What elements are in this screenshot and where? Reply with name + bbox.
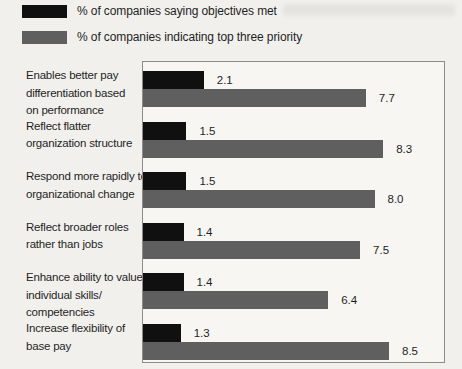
category-label-line: base pay xyxy=(26,338,125,356)
category-label: Respond more rapidly toorganizational ch… xyxy=(26,168,147,203)
category-label-line: Reflect broader roles xyxy=(26,219,129,237)
bar-top-priority: 8.0 xyxy=(143,190,375,208)
bar-value-label: 1.3 xyxy=(194,324,210,342)
bar-chart-figure: % of companies saying objectives met % o… xyxy=(0,0,462,369)
category-label-line: organizational change xyxy=(26,186,147,204)
bar-objectives-met: 1.5 xyxy=(143,122,186,140)
bar-value-label: 6.4 xyxy=(341,291,357,309)
category-label-line: organization structure xyxy=(26,135,132,153)
bar-top-priority: 7.5 xyxy=(143,241,360,259)
category-label-line: differentiation based xyxy=(26,85,125,103)
bar-objectives-met: 1.3 xyxy=(143,324,181,342)
category-label-line: individual skills/ xyxy=(26,287,143,305)
bar-value-label: 1.4 xyxy=(197,223,213,241)
category-label-line: Reflect flatter xyxy=(26,118,132,136)
category-label-line: Enhance ability to value xyxy=(26,269,143,287)
category-label: Enables better paydifferentiation basedo… xyxy=(26,67,125,120)
bar-top-priority: 6.4 xyxy=(143,291,328,309)
bar-top-priority: 8.3 xyxy=(143,140,383,158)
category-label: Reflect flatterorganization structure xyxy=(26,118,132,153)
bar-top-priority: 7.7 xyxy=(143,89,366,107)
category-label-line: rather than jobs xyxy=(26,236,129,254)
category-labels-column: Enables better paydifferentiation basedo… xyxy=(0,0,142,369)
bar-value-label: 8.3 xyxy=(396,140,412,158)
bar-value-label: 7.7 xyxy=(379,89,395,107)
category-label: Reflect broader rolesrather than jobs xyxy=(26,219,129,254)
category-label-line: Increase flexibility of xyxy=(26,320,125,338)
category-label-line: Enables better pay xyxy=(26,67,125,85)
bar-value-label: 2.1 xyxy=(217,71,233,89)
bar-objectives-met: 1.4 xyxy=(143,273,184,291)
category-label-line: Respond more rapidly to xyxy=(26,168,147,186)
bar-value-label: 7.5 xyxy=(373,241,389,259)
bar-value-label: 1.4 xyxy=(197,273,213,291)
bar-value-label: 1.5 xyxy=(199,172,215,190)
bar-value-label: 1.5 xyxy=(199,122,215,140)
category-label: Enhance ability to valueindividual skill… xyxy=(26,269,143,322)
scan-artifact xyxy=(283,4,455,16)
category-label: Increase flexibility ofbase pay xyxy=(26,320,125,355)
plot-area: 2.17.71.58.31.58.01.47.51.46.41.38.5 xyxy=(142,61,445,363)
bar-value-label: 8.5 xyxy=(402,342,418,360)
bar-objectives-met: 2.1 xyxy=(143,71,204,89)
bar-value-label: 8.0 xyxy=(388,190,404,208)
bar-objectives-met: 1.4 xyxy=(143,223,184,241)
bar-top-priority: 8.5 xyxy=(143,342,389,360)
bar-objectives-met: 1.5 xyxy=(143,172,186,190)
